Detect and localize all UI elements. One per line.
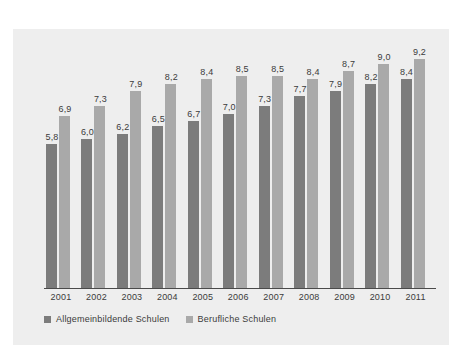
x-axis-label-2004: 2004 [150,292,184,302]
bar-group: 6,07,3 [79,34,113,288]
chart-legend: Allgemeinbildende SchulenBerufliche Schu… [44,314,276,324]
bar-value-label: 9,2 [407,47,433,57]
bar [401,79,412,288]
bar-value-label: 8,2 [158,72,184,82]
x-axis-label-2001: 2001 [44,292,78,302]
bar-group: 7,78,4 [292,34,326,288]
legend-entry-2[interactable]: Berufliche Schulen [186,314,277,324]
bar [294,96,305,288]
bar-value-label: 8,4 [194,67,220,77]
bar-value-label: 7,9 [123,79,149,89]
bar [94,106,105,288]
bar-value-label: 7,3 [87,94,113,104]
bar-value-label: 8,4 [300,67,326,77]
plot-area: 5,86,96,07,36,27,96,58,26,78,47,08,57,38… [44,34,434,288]
bar-value-label: 6,9 [52,104,78,114]
bar-group: 7,98,7 [328,34,362,288]
bar-value-label: 8,5 [265,64,291,74]
bar [330,91,341,288]
bar-group: 7,38,5 [257,34,291,288]
bar [414,59,425,288]
bar-value-label: 8,5 [229,64,255,74]
bar [343,71,354,288]
x-axis-tick-labels: 2001200220032004200520062007200820092010… [44,292,434,308]
bar-value-label: 9,0 [371,52,397,62]
bar-group: 8,49,2 [399,34,433,288]
x-axis-label-2011: 2011 [399,292,433,302]
bar [46,144,57,288]
bar [307,79,318,288]
bar [378,64,389,288]
bar-group: 6,58,2 [150,34,184,288]
bar [165,84,176,288]
x-axis-label-2003: 2003 [115,292,149,302]
bar-value-label: 8,7 [336,59,362,69]
bar [152,126,163,288]
bar [59,116,70,288]
legend-label: Allgemeinbildende Schulen [56,314,170,324]
bar [117,134,128,288]
bar [130,91,141,288]
bar-group: 8,29,0 [363,34,397,288]
bar [272,76,283,288]
bar-group: 7,08,5 [221,34,255,288]
chart-figure: 5,86,96,07,36,27,96,58,26,78,47,08,57,38… [0,0,463,359]
x-axis-label-2008: 2008 [292,292,326,302]
bar-group: 6,78,4 [186,34,220,288]
legend-entry-1[interactable]: Allgemeinbildende Schulen [44,314,170,324]
legend-swatch-icon [44,316,51,323]
legend-label: Berufliche Schulen [198,314,277,324]
bar [259,106,270,288]
bar [223,114,234,288]
x-axis-label-2006: 2006 [221,292,255,302]
x-axis-line [44,288,436,289]
x-axis-label-2009: 2009 [328,292,362,302]
bar [81,139,92,288]
bar [188,121,199,288]
x-axis-label-2010: 2010 [363,292,397,302]
bar [201,79,212,288]
bar [236,76,247,288]
bar-group: 5,86,9 [44,34,78,288]
bar [365,84,376,288]
legend-swatch-icon [186,316,193,323]
x-axis-label-2002: 2002 [79,292,113,302]
x-axis-label-2005: 2005 [186,292,220,302]
x-axis-label-2007: 2007 [257,292,291,302]
bar-group: 6,27,9 [115,34,149,288]
chart-panel: 5,86,96,07,36,27,96,58,26,78,47,08,57,38… [13,29,449,345]
